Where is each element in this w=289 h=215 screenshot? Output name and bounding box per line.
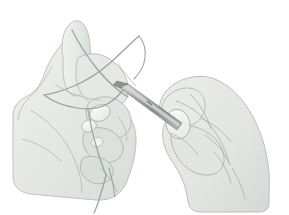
surgical-illustration-canvas: Instrument tie — suture knot being forme… xyxy=(0,0,289,215)
illustration-svg xyxy=(0,0,289,215)
